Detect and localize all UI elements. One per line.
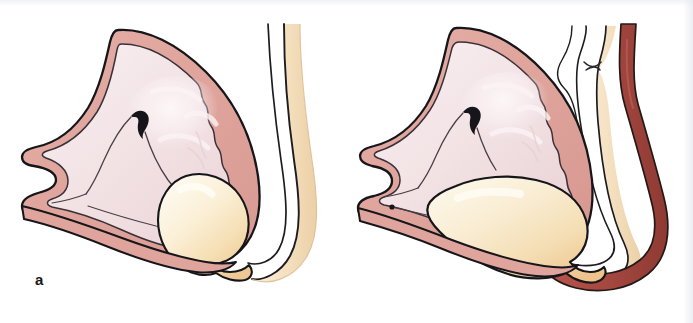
panel-a-illustration <box>0 0 346 323</box>
panel-a: a <box>0 0 346 323</box>
figure-root: a <box>0 0 693 323</box>
base-mark-b <box>389 204 394 209</box>
panel-label-a: a <box>35 272 43 287</box>
panel-b: b <box>346 0 692 323</box>
panel-b-illustration <box>346 0 692 323</box>
